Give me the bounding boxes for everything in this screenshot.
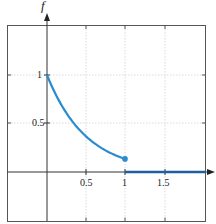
y-axis-label: f (41, 0, 47, 13)
x-axis-arrow-icon (207, 169, 215, 175)
y-tick-label-1: 1 (37, 69, 42, 80)
x-tick-label-1.5: 1.5 (157, 177, 170, 188)
y-tick-label-0.5: 0.5 (32, 117, 45, 128)
endpoint-marker (122, 156, 128, 162)
x-tick-label-1: 1 (122, 177, 127, 188)
axis-ticks (44, 75, 165, 175)
x-tick-label-0.5: 0.5 (80, 177, 93, 188)
y-axis-arrow-icon (44, 13, 50, 21)
function-plot: f 0.5 1 1.5 0.5 1 (0, 0, 216, 224)
